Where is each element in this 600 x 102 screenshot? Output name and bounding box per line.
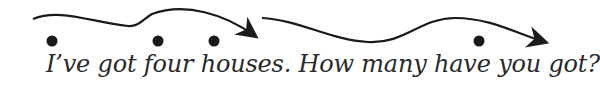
example-sentence: I’ve got four houses. How many have you …: [46, 50, 600, 78]
contour-line-1: [33, 9, 255, 36]
contour-line-2: [262, 18, 545, 42]
contour-1: [33, 9, 255, 46]
stress-dot-3: [209, 36, 220, 47]
contour-2: [262, 18, 545, 47]
stress-dot-4: [474, 36, 485, 47]
stress-dot-2: [153, 36, 164, 47]
stress-dot-1: [47, 36, 58, 47]
